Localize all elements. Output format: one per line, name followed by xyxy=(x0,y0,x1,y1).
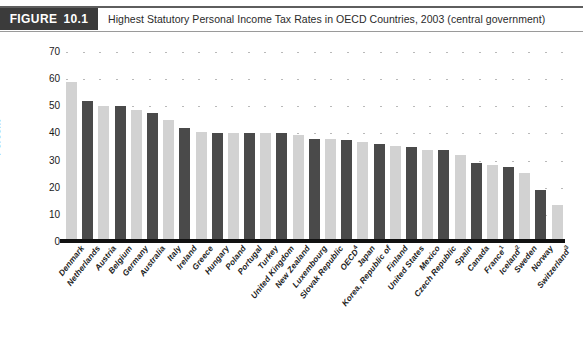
x-label-footnote: 4 xyxy=(352,244,359,250)
bar xyxy=(147,113,158,242)
bar xyxy=(82,101,93,242)
x-axis-category-labels: DenmarkNetherlandsAustriaBelgiumGermanyA… xyxy=(66,244,563,344)
bar xyxy=(357,142,368,242)
x-label-footnote: 1 xyxy=(498,244,505,250)
bar xyxy=(406,147,417,242)
bar xyxy=(552,205,563,242)
bar xyxy=(503,167,514,242)
bar xyxy=(163,120,174,242)
figure-header: FIGURE 10.1 Highest Statutory Personal I… xyxy=(0,6,583,32)
bar xyxy=(260,133,271,242)
bar xyxy=(196,132,207,242)
bar xyxy=(244,133,255,242)
y-tick-40: 40 xyxy=(49,128,60,138)
y-tick-50: 50 xyxy=(49,101,60,111)
bar xyxy=(519,173,530,242)
bar-series xyxy=(66,52,563,242)
bar xyxy=(438,150,449,242)
y-tick-60: 60 xyxy=(49,74,60,84)
figure-container: FIGURE 10.1 Highest Statutory Personal I… xyxy=(0,0,583,346)
bar xyxy=(535,190,546,242)
bar xyxy=(471,163,482,242)
figure-tag-word: FIGURE xyxy=(10,12,58,26)
figure-number-badge: FIGURE 10.1 xyxy=(0,8,98,30)
figure-number: 10.1 xyxy=(63,12,88,26)
x-label-footnote: 3 xyxy=(562,244,569,250)
y-tick-30: 30 xyxy=(49,156,60,166)
bar xyxy=(455,155,466,242)
header-bottom-rule xyxy=(0,31,583,32)
chart-panel: Percent 010203040506070 DenmarkNetherlan… xyxy=(0,36,583,346)
bar xyxy=(422,150,433,242)
bar xyxy=(98,106,109,242)
y-tick-20: 20 xyxy=(49,183,60,193)
bar xyxy=(276,133,287,242)
bar xyxy=(341,140,352,242)
bar xyxy=(66,82,77,242)
y-tick-70: 70 xyxy=(49,47,60,57)
bar xyxy=(293,135,304,242)
bar xyxy=(325,139,336,242)
bar xyxy=(228,133,239,242)
bar xyxy=(131,110,142,242)
y-tick-10: 10 xyxy=(49,210,60,220)
bar xyxy=(390,146,401,242)
bar xyxy=(487,165,498,242)
x-label-footnote: 2 xyxy=(514,244,521,250)
plot-area xyxy=(66,52,563,242)
bar xyxy=(115,106,126,242)
figure-title: Highest Statutory Personal Income Tax Ra… xyxy=(108,8,545,30)
y-axis-title: Percent xyxy=(0,119,2,155)
bar xyxy=(309,139,320,242)
bar xyxy=(179,128,190,242)
x-axis-line xyxy=(60,239,565,243)
bar xyxy=(374,144,385,242)
y-axis-tick-labels: 010203040506070 xyxy=(34,52,60,242)
bar xyxy=(212,133,223,242)
